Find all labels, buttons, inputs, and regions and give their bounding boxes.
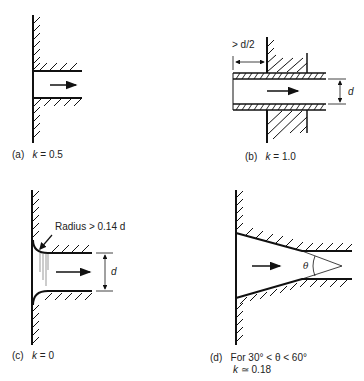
caption-d: (d) For 30° < θ < 60°: [210, 352, 307, 364]
panel-b-drawing: [233, 37, 346, 143]
diameter-label-b: d: [348, 86, 354, 98]
caption-a: (a) k = 0.5: [12, 149, 63, 161]
panel-d-drawing: [236, 190, 352, 345]
caption-b: (b) k = 1.0: [245, 151, 296, 163]
caption-d-k: k ≃ 0.18: [233, 364, 271, 376]
caption-c: (c) k = 0: [12, 350, 54, 362]
pipe-entrance-diagram: [0, 0, 364, 381]
panel-c-drawing: [32, 190, 113, 345]
diameter-label-c: d: [111, 266, 117, 278]
panel-a-drawing: [33, 15, 82, 143]
angle-theta-label: θ: [303, 260, 308, 272]
projection-dimension-label: > d/2: [232, 39, 255, 51]
radius-note: Radius > 0.14 d: [55, 221, 125, 233]
